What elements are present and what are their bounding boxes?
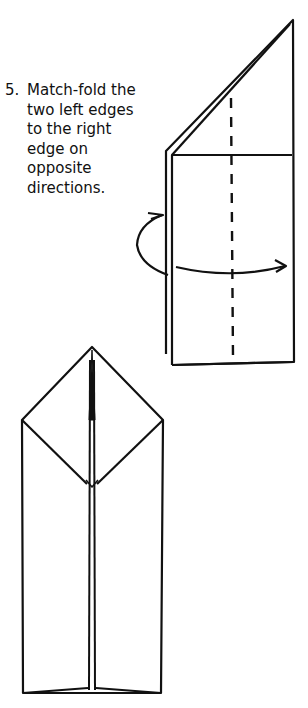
bottom-edge: [172, 362, 293, 365]
valley-fold-line: [231, 98, 233, 358]
arrow-head-right-icon: [275, 260, 286, 272]
fold-forward-arrow: [176, 266, 285, 273]
right-inner-diagonal: [97, 420, 163, 484]
center-notch: [86, 480, 98, 487]
fold-behind-arrow: [137, 215, 168, 275]
back-layer-edge: [166, 20, 294, 365]
fold-diagrams: [0, 0, 308, 708]
step-5-result-diagram: [22, 347, 163, 693]
left-inner-diagonal: [22, 420, 87, 484]
arrow-head-behind-icon: [148, 213, 163, 219]
step-5-fold-diagram: [137, 20, 294, 365]
front-diagonal-edge: [172, 24, 290, 155]
